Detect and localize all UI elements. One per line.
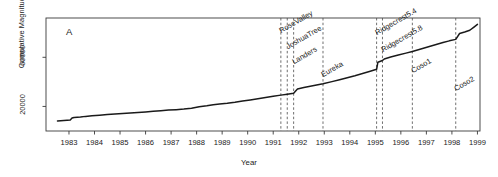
x-tick-label: 1998 [443, 138, 460, 147]
x-tick-label: 1985 [112, 138, 129, 147]
plot-canvas [0, 0, 498, 177]
cumulative-magnitude-figure: Cumulative Magnitude A 2000060000 198319… [0, 0, 498, 177]
x-tick-label: 1990 [239, 138, 256, 147]
x-tick-label: 1991 [265, 138, 282, 147]
x-tick-label: 1997 [418, 138, 435, 147]
x-tick-label: 1987 [163, 138, 180, 147]
y-tick-label: 60000 [18, 40, 27, 72]
x-axis-title: Year [0, 158, 498, 167]
x-tick-label: 1992 [290, 138, 307, 147]
x-tick-label: 1984 [86, 138, 103, 147]
x-tick-label: 1993 [316, 138, 333, 147]
y-tick-label: 20000 [18, 89, 27, 121]
x-tick-label: 1983 [61, 138, 78, 147]
x-tick-label: 1999 [469, 138, 486, 147]
x-tick-label: 1988 [188, 138, 205, 147]
x-tick-label: 1989 [214, 138, 231, 147]
x-tick-label: 1995 [367, 138, 384, 147]
x-tick-label: 1986 [137, 138, 154, 147]
x-tick-label: 1996 [392, 138, 409, 147]
x-tick-label: 1994 [341, 138, 358, 147]
